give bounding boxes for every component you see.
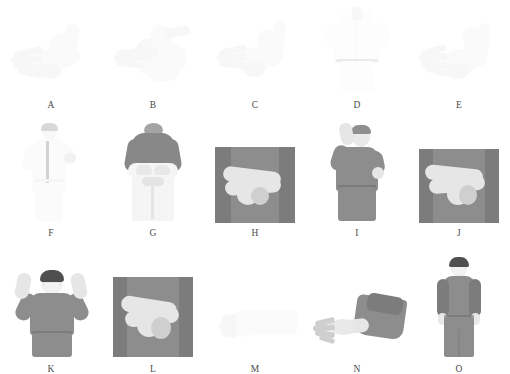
panel-i-image	[306, 121, 408, 223]
panel-l-caption: L	[102, 365, 204, 374]
panel-b: B	[102, 0, 204, 110]
panel-e: E	[408, 0, 510, 110]
figure-panel-grid: A B	[0, 0, 510, 374]
panel-b-image	[102, 5, 204, 93]
panel-i: I	[306, 112, 408, 238]
panel-n-image	[306, 253, 408, 357]
panel-o: O	[408, 240, 510, 374]
panel-f-image	[0, 121, 102, 223]
panel-n-caption: N	[306, 365, 408, 374]
panel-g-caption: G	[102, 229, 204, 239]
panel-b-caption: B	[102, 101, 204, 111]
panel-a-caption: A	[0, 101, 102, 111]
panel-l-image	[102, 253, 204, 357]
panel-e-image	[408, 5, 510, 93]
panel-j: J	[408, 112, 510, 238]
panel-row-1: A B	[0, 0, 510, 110]
panel-c-caption: C	[204, 101, 306, 111]
panel-c-image	[204, 5, 306, 93]
panel-e-caption: E	[408, 101, 510, 111]
panel-h-caption: H	[204, 229, 306, 239]
panel-o-image	[408, 253, 510, 357]
panel-i-caption: I	[306, 229, 408, 239]
panel-j-caption: J	[408, 229, 510, 239]
panel-l: L	[102, 240, 204, 374]
panel-d-caption: D	[306, 101, 408, 111]
panel-c: C	[204, 0, 306, 110]
panel-d: D	[306, 0, 408, 110]
panel-k-caption: K	[0, 365, 102, 374]
panel-g-image	[102, 121, 204, 223]
panel-k-image	[0, 253, 102, 357]
panel-g: G	[102, 112, 204, 238]
panel-d-image	[306, 5, 408, 93]
panel-k: K	[0, 240, 102, 374]
panel-a: A	[0, 0, 102, 110]
panel-h: H	[204, 112, 306, 238]
panel-a-image	[0, 5, 102, 93]
panel-h-image	[204, 121, 306, 223]
panel-row-3: K L	[0, 240, 510, 374]
panel-f: F	[0, 112, 102, 238]
panel-m: M	[204, 240, 306, 374]
panel-row-2: F G	[0, 112, 510, 238]
panel-n: N	[306, 240, 408, 374]
panel-f-caption: F	[0, 229, 102, 239]
panel-m-caption: M	[204, 365, 306, 374]
panel-m-image	[204, 253, 306, 357]
panel-j-image	[408, 121, 510, 223]
panel-o-caption: O	[408, 365, 510, 374]
